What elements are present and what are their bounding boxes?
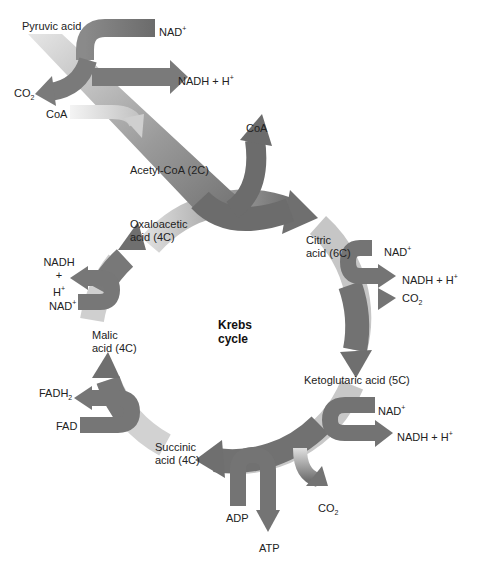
coa-out-arrow: [232, 140, 256, 210]
label-oxalo-nad: NAD+: [49, 296, 76, 313]
label-citric-nadh: NADH + H+: [402, 270, 458, 287]
label-nadh-entry: NADH + H+: [178, 71, 234, 88]
label-pyruvic-acid: Pyruvic acid: [22, 20, 81, 33]
label-fadh2: FADH2: [39, 387, 72, 404]
center-label-krebs-cycle: Krebscycle: [218, 318, 252, 346]
succinic-line1: Succinic: [155, 441, 200, 454]
label-oxaloacetic-acid: Oxaloaceticacid (4C): [130, 218, 187, 244]
succinic-line2: acid (4C): [155, 454, 200, 467]
subscript: 2: [335, 509, 339, 516]
label-atp: ATP: [259, 542, 280, 555]
label-citric-acid: Citricacid (6C): [306, 234, 351, 260]
krebs-cycle-diagram: Pyruvic acid NAD+ NADH + H+ CO2 CoA Acet…: [0, 0, 479, 570]
label-ketoglutaric-acid: Ketoglutaric acid (5C): [304, 374, 410, 387]
oxaloacetic-line1: Oxaloacetic: [130, 218, 187, 231]
center-line2: cycle: [218, 332, 252, 346]
label-nad-entry: NAD+: [159, 22, 186, 39]
label-keto-co2: CO2: [318, 502, 338, 519]
malic-line2: acid (4C): [92, 342, 137, 355]
superscript: +: [61, 285, 65, 292]
label-succinic-acid: Succinicacid (4C): [155, 441, 200, 467]
citric-line2: acid (6C): [306, 247, 351, 260]
nad-text: NAD: [159, 26, 182, 38]
co2-text: CO: [402, 292, 419, 304]
label-oxalo-nadh: NADH+H+: [42, 256, 76, 299]
nadh-text: NADH + H: [402, 274, 454, 286]
label-adp: ADP: [226, 512, 249, 525]
label-malic-acid: Malicacid (4C): [92, 329, 137, 355]
label-citric-nad: NAD+: [384, 242, 411, 259]
superscript: +: [407, 245, 411, 252]
label-citric-co2: CO2: [402, 292, 422, 309]
nad-text: NAD: [384, 246, 407, 258]
label-keto-nadh: NADH + H+: [397, 427, 453, 444]
label-acetyl-coa: Acetyl-CoA (2C): [130, 164, 209, 177]
co2-text: CO: [14, 87, 31, 99]
label-coa-in: CoA: [46, 108, 67, 121]
superscript: +: [72, 299, 76, 306]
nadh-text: NADH + H: [397, 431, 449, 443]
subscript: 2: [419, 299, 423, 306]
superscript: +: [401, 404, 405, 411]
citric-line1: Citric: [306, 234, 351, 247]
label-co2-entry: CO2: [14, 87, 34, 104]
subscript: 2: [68, 394, 72, 401]
label-keto-nad: NAD+: [378, 401, 405, 418]
superscript: +: [454, 273, 458, 280]
superscript: +: [182, 25, 186, 32]
fadh-text: FADH: [39, 387, 68, 399]
nadh-line2: +: [42, 269, 76, 282]
superscript: +: [449, 430, 453, 437]
pyruvic-acid-arrow: [28, 34, 258, 228]
label-fad: FAD: [56, 420, 77, 433]
malic-line1: Malic: [92, 329, 137, 342]
label-coa-out: CoA: [246, 122, 267, 135]
co2-text: CO: [318, 502, 335, 514]
nad-text: NAD: [49, 300, 72, 312]
nad-text: NAD: [378, 405, 401, 417]
nadh-text: NADH + H: [178, 75, 230, 87]
superscript: +: [230, 74, 234, 81]
subscript: 2: [31, 94, 35, 101]
nadh-line1: NADH: [42, 256, 76, 269]
center-line1: Krebs: [218, 318, 252, 332]
oxaloacetic-line2: acid (4C): [130, 231, 187, 244]
